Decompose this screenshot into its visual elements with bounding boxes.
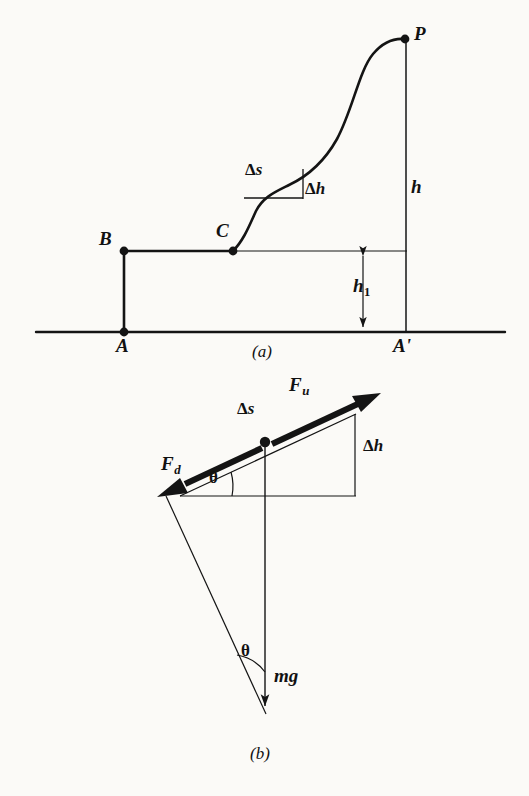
delta-symbol: Δ [305, 179, 316, 198]
figure-canvas [0, 0, 529, 796]
particle-dot [260, 437, 270, 447]
physics-figure: A B C P A' h h1 Δs Δh (a) Fu Fd Δs Δh θ … [0, 0, 529, 796]
label-fu-subscript: u [302, 383, 309, 398]
label-force-fd: Fd [161, 454, 181, 477]
label-point-a: A [116, 336, 129, 355]
label-fu-base: F [289, 374, 302, 395]
delta-s-variable: s [248, 399, 255, 418]
point-dot-c [229, 247, 238, 256]
delta-h-variable: h [374, 436, 383, 455]
label-h1-base: h [353, 275, 364, 296]
label-fd-subscript: d [174, 462, 180, 477]
label-height-h1: h1 [353, 276, 370, 298]
caption-panel-a: (a) [252, 343, 272, 360]
delta-symbol: Δ [363, 436, 374, 455]
label-delta-s-panel-a: Δs [245, 161, 262, 178]
label-h1-subscript: 1 [364, 285, 370, 299]
label-delta-h-panel-a: Δh [305, 180, 325, 197]
caption-panel-b: (b) [250, 745, 270, 762]
delta-symbol: Δ [237, 399, 248, 418]
resultant-guide-line [166, 496, 266, 714]
label-theta-slope: θ [209, 469, 218, 486]
point-dot-p [401, 35, 410, 44]
slope-triangle-hypotenuse [180, 414, 356, 496]
delta-symbol: Δ [245, 160, 256, 179]
label-height-h: h [411, 177, 422, 196]
label-force-fu: Fu [289, 375, 309, 398]
label-point-b: B [99, 229, 112, 248]
delta-h-variable: h [316, 179, 325, 198]
label-fd-base: F [161, 453, 174, 474]
panel-a-group [36, 35, 505, 337]
panel-b-group [157, 393, 381, 714]
delta-s-variable: s [256, 160, 263, 179]
label-delta-h-panel-b: Δh [363, 437, 383, 454]
label-mg: mg [274, 666, 298, 685]
label-point-a-prime: A' [393, 336, 411, 355]
curve-c-to-p [233, 39, 405, 251]
label-point-c: C [216, 221, 229, 240]
theta-arc-slope [231, 472, 233, 496]
point-dot-b [120, 247, 129, 256]
label-point-p: P [414, 24, 426, 43]
label-delta-s-panel-b: Δs [237, 400, 254, 417]
label-theta-bottom: θ [241, 642, 250, 659]
